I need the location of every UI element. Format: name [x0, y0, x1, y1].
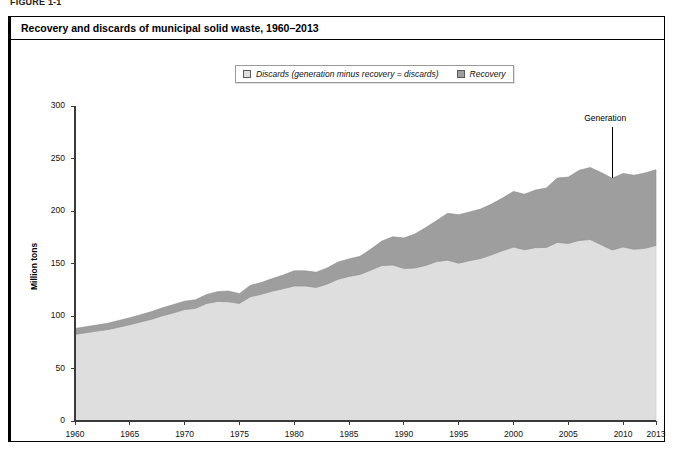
- x-tick-label: 1995: [442, 429, 476, 439]
- recovery-swatch: [457, 70, 465, 78]
- y-tick-label: 200: [39, 205, 65, 215]
- discards-swatch: [243, 70, 251, 78]
- x-tick-label: 2013: [639, 429, 673, 439]
- y-axis-title: Million tons: [29, 242, 39, 289]
- x-tick-label: 1960: [58, 429, 92, 439]
- x-tick-label: 1975: [222, 429, 256, 439]
- y-tick-label: 300: [39, 100, 65, 110]
- y-tick-label: 250: [39, 153, 65, 163]
- x-tick-label: 1970: [168, 429, 202, 439]
- chart-legend: Discards (generation minus recovery = di…: [235, 65, 514, 83]
- x-tick-label: 1990: [387, 429, 421, 439]
- y-tick-label: 50: [39, 363, 65, 373]
- x-tick-label: 1980: [277, 429, 311, 439]
- x-tick-label: 2005: [551, 429, 585, 439]
- legend-item-recovery[interactable]: Recovery: [457, 69, 506, 79]
- figure-frame: Recovery and discards of municipal solid…: [8, 16, 665, 442]
- x-tick-label: 1985: [332, 429, 366, 439]
- x-tick-label: 1965: [113, 429, 147, 439]
- y-tick-label: 100: [39, 310, 65, 320]
- legend-label-discards: Discards (generation minus recovery = di…: [256, 69, 439, 79]
- x-tick-label: 2010: [606, 429, 640, 439]
- x-tick-label: 2000: [496, 429, 530, 439]
- y-tick-label: 0: [39, 415, 65, 425]
- legend-label-recovery: Recovery: [470, 69, 506, 79]
- y-tick-label: 150: [39, 258, 65, 268]
- legend-item-discards[interactable]: Discards (generation minus recovery = di…: [243, 69, 439, 79]
- figure-number-label: FIGURE 1-1: [10, 0, 62, 9]
- stacked-areas: [75, 168, 656, 421]
- generation-annotation-label: Generation: [584, 113, 626, 123]
